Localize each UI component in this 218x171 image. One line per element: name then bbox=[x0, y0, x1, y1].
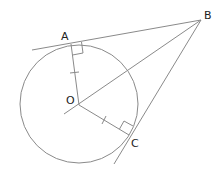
line-bo bbox=[64, 20, 201, 114]
equal-tick-oa bbox=[70, 72, 79, 73]
right-angle-mark-a bbox=[73, 42, 84, 55]
label-o: O bbox=[66, 94, 75, 107]
label-c: C bbox=[131, 137, 139, 150]
label-a: A bbox=[61, 30, 69, 43]
tangent-line-bc bbox=[114, 20, 201, 164]
tangent-circle-diagram: A B C O bbox=[0, 0, 218, 171]
tangent-line-ba bbox=[32, 20, 201, 50]
label-b: B bbox=[204, 9, 212, 22]
equal-tick-oc bbox=[102, 116, 106, 124]
right-angle-mark-c bbox=[120, 121, 134, 129]
